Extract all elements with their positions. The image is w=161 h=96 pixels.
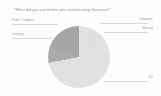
slice-label-manual: Manual (142, 26, 153, 30)
slide-canvas: "What did you use before you started usi… (0, 0, 161, 96)
pie-chart (48, 26, 110, 88)
leader-line-manual (104, 32, 148, 33)
leader-line-public-outdoor (12, 24, 58, 25)
slice-label-kit: Kit (149, 75, 153, 79)
slice-label-computer: Computer (139, 17, 153, 21)
pie-slices (48, 26, 110, 88)
slice-label-public-outdoor: Public Outdoor (12, 18, 34, 22)
chart-title: "What did you use before you started usi… (14, 8, 146, 13)
leader-line-computer (100, 23, 148, 24)
leader-line-looking (12, 38, 52, 39)
leader-line-kit (104, 81, 148, 82)
slice-label-looking: Looking (12, 32, 24, 36)
